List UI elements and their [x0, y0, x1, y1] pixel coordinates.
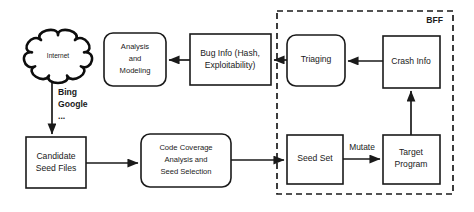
search-engines-annotation: BingGoogle... — [58, 87, 88, 121]
crash-info-box[interactable] — [383, 36, 440, 88]
internet-cloud[interactable] — [24, 30, 92, 83]
edge-label-mutate: Mutate — [349, 142, 375, 152]
diagram-canvas: BFF InternetCandidateSeed FilesCode Cove… — [0, 0, 474, 212]
candidate-seed-files-box[interactable] — [26, 137, 86, 188]
seed-set-box[interactable] — [287, 135, 343, 184]
code-coverage-analysis-box[interactable] — [141, 134, 231, 187]
bug-info-box[interactable] — [190, 34, 271, 85]
target-program-box[interactable] — [383, 135, 440, 184]
triaging-box[interactable] — [287, 35, 345, 86]
workflow-diagram: BFF InternetCandidateSeed FilesCode Cove… — [0, 0, 474, 212]
bff-group-label: BFF — [426, 15, 443, 25]
analysis-and-modeling-box[interactable] — [104, 33, 166, 86]
